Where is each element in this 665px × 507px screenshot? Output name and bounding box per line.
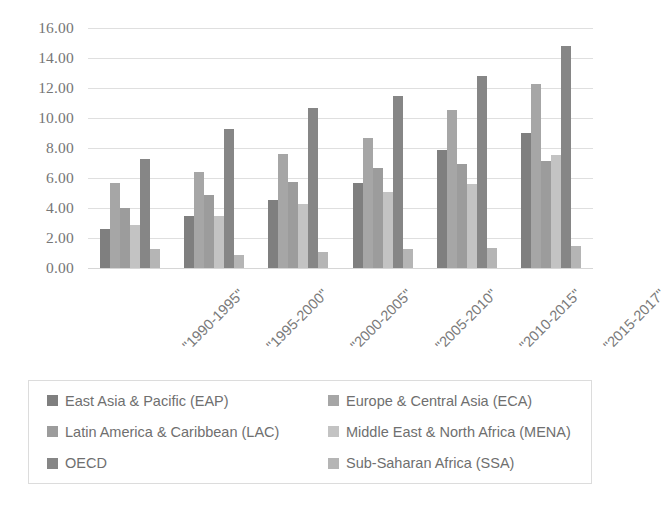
bar <box>268 200 278 268</box>
x-tick-label: "1990-1995" <box>179 286 247 354</box>
bar <box>437 150 447 269</box>
bar <box>571 246 581 269</box>
bar <box>184 216 194 269</box>
legend-item[interactable]: OECD <box>29 455 310 471</box>
x-tick-label: "2010-2015" <box>516 286 584 354</box>
bar <box>457 164 467 268</box>
bar-group <box>172 0 256 300</box>
x-tick-label: "2005-2010" <box>432 286 500 354</box>
y-tick-label: 4.00 <box>46 200 74 216</box>
legend-swatch-icon <box>47 426 58 437</box>
legend-label: OECD <box>65 455 107 471</box>
bar-group <box>341 0 425 300</box>
bar <box>194 172 204 268</box>
bar-group <box>256 0 340 300</box>
legend-label: Middle East & North Africa (MENA) <box>346 424 571 440</box>
y-axis: 0.002.004.006.008.0010.0012.0014.0016.00 <box>0 0 84 300</box>
bar <box>531 84 541 269</box>
legend-label: Europe & Central Asia (ECA) <box>346 393 532 409</box>
y-tick-label: 6.00 <box>46 170 74 186</box>
bars-layer <box>88 0 593 300</box>
legend-label: Sub-Saharan Africa (SSA) <box>346 455 514 471</box>
bar <box>130 225 140 269</box>
legend-label: Latin America & Caribbean (LAC) <box>65 424 279 440</box>
legend-item[interactable]: Latin America & Caribbean (LAC) <box>29 424 310 440</box>
y-tick-label: 12.00 <box>38 80 74 96</box>
legend-swatch-icon <box>47 395 58 406</box>
bar <box>487 248 497 268</box>
bar <box>477 76 487 268</box>
bar <box>447 110 457 268</box>
bar <box>393 96 403 269</box>
bar <box>383 192 393 269</box>
x-tick-label: "1995-2000" <box>264 286 332 354</box>
bar-group <box>509 0 593 300</box>
y-tick-label: 16.00 <box>38 20 74 36</box>
bar <box>100 229 110 268</box>
bar <box>551 155 561 268</box>
legend-item[interactable]: Europe & Central Asia (ECA) <box>310 393 591 409</box>
legend-item[interactable]: Sub-Saharan Africa (SSA) <box>310 455 591 471</box>
bar <box>561 46 571 268</box>
chart-legend: East Asia & Pacific (EAP)Europe & Centra… <box>28 380 592 484</box>
bar <box>298 204 308 269</box>
legend-swatch-icon <box>328 426 339 437</box>
x-axis: "1990-1995""1995-2000""2000-2005""2005-2… <box>88 272 593 372</box>
bar <box>120 208 130 268</box>
legend-swatch-icon <box>328 395 339 406</box>
bar <box>318 252 328 269</box>
bar <box>373 168 383 269</box>
bar-group <box>425 0 509 300</box>
legend-label: East Asia & Pacific (EAP) <box>65 393 229 409</box>
legend-swatch-icon <box>47 458 58 469</box>
legend-item[interactable]: East Asia & Pacific (EAP) <box>29 393 310 409</box>
legend-item[interactable]: Middle East & North Africa (MENA) <box>310 424 591 440</box>
bar <box>204 195 214 268</box>
legend-swatch-icon <box>328 458 339 469</box>
bar <box>353 183 363 268</box>
bar <box>308 108 318 269</box>
bar <box>278 154 288 268</box>
bar <box>224 129 234 269</box>
y-tick-label: 14.00 <box>38 50 74 66</box>
y-tick-label: 0.00 <box>46 260 74 276</box>
bar <box>140 159 150 269</box>
bar <box>110 183 120 268</box>
bar <box>541 161 551 268</box>
bar <box>288 182 298 268</box>
bar-group <box>88 0 172 300</box>
x-tick-label: "2000-2005" <box>348 286 416 354</box>
bar <box>521 133 531 268</box>
y-tick-label: 8.00 <box>46 140 74 156</box>
legend-grid: East Asia & Pacific (EAP)Europe & Centra… <box>29 381 591 483</box>
y-tick-label: 10.00 <box>38 110 74 126</box>
plot-area: 0.002.004.006.008.0010.0012.0014.0016.00 <box>0 0 618 300</box>
bar <box>234 255 244 269</box>
bar <box>467 184 477 268</box>
y-tick-label: 2.00 <box>46 230 74 246</box>
bar <box>150 249 160 268</box>
bar <box>403 249 413 268</box>
bar <box>363 138 373 268</box>
bar <box>214 216 224 269</box>
